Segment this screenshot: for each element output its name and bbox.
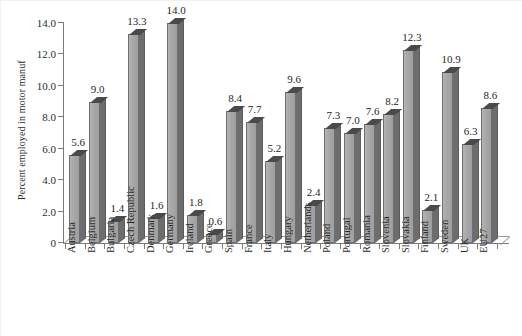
y-axis-tick-label: 0 bbox=[51, 237, 57, 249]
y-axis-tick-label: 12.0 bbox=[37, 48, 56, 60]
x-axis-category-label: Spain bbox=[223, 229, 234, 253]
bar-front-face bbox=[167, 23, 178, 243]
y-axis-tick-mark bbox=[58, 242, 63, 243]
bar-front-face bbox=[265, 161, 276, 243]
y-axis-tick-label: 14.0 bbox=[37, 17, 56, 29]
y-axis-tick-label: 2.0 bbox=[42, 206, 56, 218]
bar-body bbox=[265, 161, 276, 243]
y-axis-tick-label: 4.0 bbox=[42, 174, 56, 186]
x-axis-category-label: EU27 bbox=[478, 229, 489, 254]
x-axis-category-label: Ireland bbox=[184, 223, 195, 253]
y-axis-tick-label: 8.0 bbox=[42, 111, 56, 123]
y-axis-tick-label: 6.0 bbox=[42, 143, 56, 155]
y-axis-tick-mark bbox=[58, 179, 63, 180]
x-axis-category-label: Portugal bbox=[341, 217, 352, 253]
y-axis-tick: 2.0 bbox=[23, 206, 63, 218]
bar-side-face bbox=[453, 67, 459, 243]
x-axis-category-label: Bulgaria bbox=[105, 217, 116, 253]
bar-side-face bbox=[473, 139, 479, 243]
bar: 5.2 bbox=[265, 161, 283, 243]
y-axis-tick-mark bbox=[58, 148, 63, 149]
bar-value-label: 10.9 bbox=[437, 53, 465, 65]
bar-front-face bbox=[226, 111, 237, 243]
bar-value-label: 12.3 bbox=[398, 31, 426, 43]
floor-edge-right bbox=[500, 236, 510, 245]
bar-body bbox=[442, 72, 453, 243]
bar-value-label: 13.3 bbox=[123, 15, 151, 27]
y-axis-tick: 0 bbox=[23, 237, 63, 249]
x-axis-category-label: Netherlands bbox=[302, 202, 313, 253]
bar: 12.3 bbox=[403, 50, 421, 243]
bar-side-face bbox=[355, 128, 361, 243]
x-axis-category-label: Hungary bbox=[282, 216, 293, 253]
bar-side-face bbox=[139, 29, 145, 243]
x-axis-category-label: Poland bbox=[321, 224, 332, 253]
y-axis-tick-label: 10.0 bbox=[37, 80, 56, 92]
chart-page: Percent employed in motor manuf 02.04.06… bbox=[0, 0, 522, 336]
bar-body bbox=[462, 144, 473, 243]
x-axis-category-label: Germany bbox=[164, 214, 175, 253]
bar-side-face bbox=[237, 106, 243, 243]
x-axis-category-label: Slovakia bbox=[400, 216, 411, 253]
bar-side-face bbox=[414, 45, 420, 243]
y-axis-tick-mark bbox=[58, 53, 63, 54]
bar-value-label: 8.6 bbox=[476, 89, 504, 101]
bar-side-face bbox=[178, 18, 184, 243]
y-axis-tick-mark bbox=[58, 116, 63, 117]
y-axis-tick-mark bbox=[58, 22, 63, 23]
bar-value-label: 9.0 bbox=[84, 83, 112, 95]
x-axis-category-label: Slovenia bbox=[380, 216, 391, 253]
y-axis-tick: 10.0 bbox=[23, 80, 63, 92]
bar: 8.4 bbox=[226, 111, 244, 243]
x-axis-category-label: Austria bbox=[66, 222, 77, 253]
y-axis-tick: 4.0 bbox=[23, 174, 63, 186]
y-axis-tick-mark bbox=[58, 85, 63, 86]
x-axis-category-label: France bbox=[243, 224, 254, 253]
y-axis-tick: 6.0 bbox=[23, 143, 63, 155]
bar-value-label: 9.6 bbox=[280, 73, 308, 85]
x-axis-tick-mark bbox=[497, 244, 498, 249]
x-axis-category-label: Romania bbox=[361, 215, 372, 253]
y-axis-tick-mark bbox=[58, 211, 63, 212]
x-axis-category-label: Italy bbox=[262, 234, 273, 253]
bar: 14.0 bbox=[167, 23, 185, 243]
x-axis-category-label: Greece bbox=[203, 223, 214, 253]
bar-side-face bbox=[257, 117, 263, 243]
bar: 10.9 bbox=[442, 72, 460, 243]
bar-front-face bbox=[462, 144, 473, 243]
x-axis-category-label: Sweden bbox=[439, 220, 450, 253]
bar-value-label: 7.7 bbox=[241, 103, 269, 115]
bar-front-face bbox=[481, 108, 492, 243]
x-axis-category-label: UK bbox=[459, 238, 470, 253]
bar-value-label: 1.8 bbox=[182, 196, 210, 208]
x-axis-category-label: Belgium bbox=[86, 217, 97, 253]
y-axis-tick: 14.0 bbox=[23, 17, 63, 29]
bar-side-face bbox=[492, 103, 498, 243]
bar-body bbox=[481, 108, 492, 243]
plot-area: 02.04.06.08.010.012.014.0 5.69.01.413.31… bbox=[63, 22, 509, 244]
bar-body bbox=[226, 111, 237, 243]
y-axis-tick: 12.0 bbox=[23, 48, 63, 60]
y-axis-line bbox=[63, 22, 64, 244]
bar-front-face bbox=[403, 50, 414, 243]
bar-body bbox=[403, 50, 414, 243]
x-axis-category-label: Denmark bbox=[145, 214, 156, 253]
bar-body bbox=[167, 23, 178, 243]
x-axis-category-label: Czech Republic bbox=[125, 186, 136, 253]
x-axis-category-label: Finland bbox=[419, 221, 430, 253]
y-axis-tick: 8.0 bbox=[23, 111, 63, 123]
bar: 8.6 bbox=[481, 108, 499, 243]
bar-front-face bbox=[442, 72, 453, 243]
bar-value-label: 14.0 bbox=[162, 4, 190, 16]
